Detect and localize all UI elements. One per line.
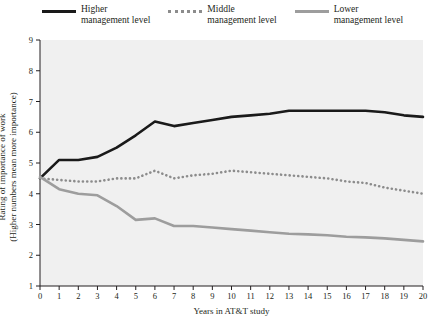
svg-text:8: 8: [191, 291, 195, 301]
svg-text:5: 5: [29, 158, 33, 168]
svg-text:18: 18: [380, 291, 389, 301]
svg-text:9: 9: [210, 291, 214, 301]
svg-text:0: 0: [38, 291, 42, 301]
chart-figure: Higher management level Middle managemen…: [0, 0, 445, 332]
svg-text:13: 13: [285, 291, 294, 301]
svg-text:16: 16: [342, 291, 351, 301]
svg-text:12: 12: [266, 291, 275, 301]
svg-text:1: 1: [57, 291, 61, 301]
svg-text:3: 3: [95, 291, 99, 301]
svg-text:17: 17: [361, 291, 370, 301]
svg-text:9: 9: [29, 35, 33, 45]
svg-text:14: 14: [304, 291, 313, 301]
svg-text:2: 2: [29, 250, 33, 260]
svg-text:2: 2: [76, 291, 80, 301]
svg-text:10: 10: [227, 291, 236, 301]
svg-text:6: 6: [153, 291, 157, 301]
chart-canvas: 1234567890123456789101112131415161718192…: [0, 0, 445, 332]
svg-text:3: 3: [29, 220, 33, 230]
svg-text:1: 1: [29, 281, 33, 291]
svg-text:15: 15: [323, 291, 332, 301]
svg-text:7: 7: [29, 97, 33, 107]
svg-text:4: 4: [29, 189, 34, 199]
svg-text:11: 11: [247, 291, 255, 301]
svg-text:20: 20: [419, 291, 428, 301]
x-axis-title: Years in AT&T study: [40, 306, 423, 316]
svg-text:7: 7: [172, 291, 176, 301]
svg-text:19: 19: [400, 291, 409, 301]
svg-text:4: 4: [114, 291, 119, 301]
svg-text:5: 5: [134, 291, 138, 301]
svg-text:6: 6: [29, 127, 33, 137]
svg-text:8: 8: [29, 66, 33, 76]
